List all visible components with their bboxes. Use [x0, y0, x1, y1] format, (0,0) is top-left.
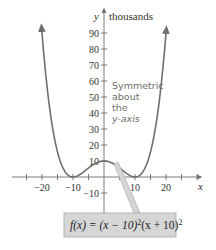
formula-exp2: 2 — [178, 218, 182, 227]
x-axis-tick-labels: −20−101020 — [34, 182, 171, 193]
x-tick-label: −20 — [34, 182, 50, 193]
annotation-line-1: Symmetric — [112, 80, 164, 91]
y-axis-label: y — [93, 10, 99, 22]
y-tick-label: 50 — [89, 92, 99, 103]
annotation-line-3: the — [112, 102, 128, 113]
x-tick-label: 20 — [161, 182, 171, 193]
y-tick-label: 70 — [89, 60, 99, 71]
formula-middle: (x + 10) — [141, 219, 178, 232]
y-tick-label: 60 — [89, 76, 99, 87]
y-axis-unit-label: thousands — [109, 10, 153, 22]
y-tick-label: 90 — [89, 28, 99, 39]
x-tick-label: 10 — [130, 182, 140, 193]
annotation-line-4: y-axis — [111, 113, 140, 124]
y-tick-label: 40 — [89, 108, 99, 119]
x-tick-label: −10 — [65, 182, 81, 193]
formula-prefix: f(x) = (x − 10) — [70, 219, 137, 232]
formula-text: f(x) = (x − 10)2(x + 10)2 — [70, 218, 182, 232]
y-axis-tick-labels: −10102030405060708090 — [83, 28, 99, 199]
x-axis: −20−101020 x — [12, 174, 203, 193]
x-axis-label: x — [197, 180, 203, 192]
y-tick-label: −10 — [83, 188, 99, 199]
chart-canvas: −20−101020 x −10102030405060708090 y tho… — [0, 0, 216, 250]
y-tick-label: 20 — [89, 140, 99, 151]
y-tick-label: 30 — [89, 124, 99, 135]
y-tick-label: 80 — [89, 44, 99, 55]
annotation-line-2: about — [112, 91, 140, 102]
symmetry-annotation: Symmetric about the y-axis — [111, 80, 164, 124]
